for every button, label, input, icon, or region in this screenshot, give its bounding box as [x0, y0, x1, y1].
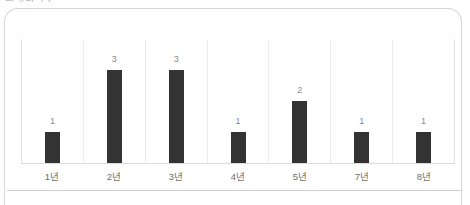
bar-value-label: 3 [174, 55, 179, 64]
bar-category: 1 [207, 39, 269, 163]
x-axis-tick-label: 8년 [393, 169, 455, 185]
bar-category: 1 [330, 39, 392, 163]
x-axis-tick-label: 7년 [331, 169, 393, 185]
bar[interactable]: 3 [107, 70, 122, 163]
bar[interactable]: 1 [231, 132, 246, 163]
bar-value-label: 1 [50, 117, 55, 126]
clipped-heading-text: 님 4명 12 [5, 0, 52, 2]
bar-category: 3 [145, 39, 207, 163]
x-axis-tick-label: 1년 [21, 169, 83, 185]
bar-value-label: 1 [359, 117, 364, 126]
chart-plot-area: 1 3 3 1 2 [21, 39, 455, 164]
bar[interactable]: 1 [354, 132, 369, 163]
bar-category: 1 [392, 39, 454, 163]
bar-value-label: 1 [421, 117, 426, 126]
bar-value-label: 1 [235, 117, 240, 126]
bar-category: 3 [83, 39, 145, 163]
bar-category: 1 [22, 39, 83, 163]
bar-category: 2 [268, 39, 330, 163]
x-axis-tick-label: 4년 [207, 169, 269, 185]
bar[interactable]: 1 [45, 132, 60, 163]
x-axis-tick-label: 3년 [145, 169, 207, 185]
bar[interactable]: 2 [292, 101, 307, 163]
x-axis-tick-label: 2년 [83, 169, 145, 185]
x-axis-tick-label: 5년 [269, 169, 331, 185]
x-axis-labels: 1년 2년 3년 4년 5년 7년 8년 [21, 169, 455, 185]
bar[interactable]: 3 [169, 70, 184, 163]
bar-group: 1 3 3 1 2 [22, 39, 454, 163]
bar[interactable]: 1 [416, 132, 431, 163]
chart-card: 1 3 3 1 2 [4, 8, 462, 205]
bar-value-label: 2 [297, 86, 302, 95]
bottom-divider [7, 190, 463, 191]
bar-value-label: 3 [112, 55, 117, 64]
